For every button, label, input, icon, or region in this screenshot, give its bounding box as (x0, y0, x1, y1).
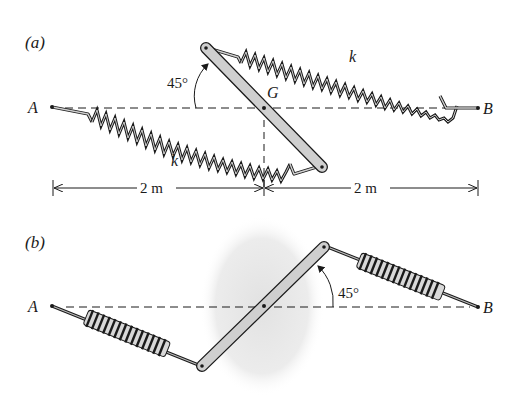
anchor-a-point-b (50, 304, 54, 308)
dimension-lines: 2 m 2 m (53, 180, 478, 196)
figure-b-label: (b) (25, 233, 45, 252)
pin-upper-a (204, 46, 208, 50)
pin-lower-b (200, 364, 204, 368)
dimension-left-label: 2 m (140, 180, 163, 196)
figure-b: (b) (25, 216, 493, 396)
label-point-b-b: B (483, 299, 493, 316)
spring-k-label-bottom: k (171, 152, 179, 169)
anchor-b-point (476, 106, 480, 110)
spring-left-b (52, 306, 201, 366)
label-point-b: B (483, 100, 493, 117)
label-point-a: A (27, 99, 38, 116)
spring-bar-diagram: (a) (0, 0, 514, 405)
pin-lower-a (320, 165, 324, 169)
center-of-mass-g (262, 106, 266, 110)
figure-a: (a) (25, 33, 493, 196)
label-point-a-b: A (27, 298, 38, 315)
anchor-a-point (50, 105, 54, 109)
anchor-b-point-b (476, 305, 480, 309)
dimension-right-label: 2 m (354, 180, 377, 196)
pin-upper-b (322, 245, 326, 249)
figure-a-label: (a) (25, 33, 45, 52)
spring-k-label-top: k (349, 48, 357, 65)
angle-arc-a (194, 64, 208, 108)
angle-label-b: 45° (338, 285, 359, 301)
angle-label-a: 45° (167, 75, 188, 91)
label-g: G (267, 84, 279, 101)
center-of-mass-b (262, 304, 266, 308)
